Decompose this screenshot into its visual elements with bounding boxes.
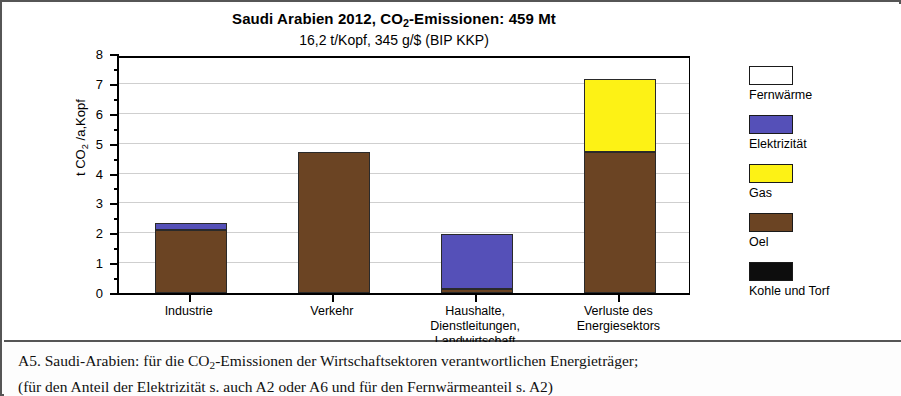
x-axis-label-2: Verkehr xyxy=(252,304,412,319)
bar-segment-elektrizit-t xyxy=(155,223,227,230)
y-tick-label: 0 xyxy=(81,288,103,300)
legend-swatch-oel xyxy=(749,213,793,232)
legend-entry-3: Gas xyxy=(749,164,899,213)
caption-line-1: A5. Saudi-Arabien: für die CO2-Emissione… xyxy=(18,350,891,376)
legend-label: Oel xyxy=(749,235,768,249)
figure-caption: A5. Saudi-Arabien: für die CO2-Emissione… xyxy=(4,342,901,396)
caption-line-1-after: -Emissionen der Wirtschaftsektoren veran… xyxy=(215,352,638,369)
figure-frame: Saudi Arabien 2012, CO2-Emissionen: 459 … xyxy=(0,0,901,396)
bar-2 xyxy=(298,54,370,293)
bar-segment-oel xyxy=(298,152,370,293)
legend-entry-4: Oel xyxy=(749,213,899,262)
chart-panel: Saudi Arabien 2012, CO2-Emissionen: 459 … xyxy=(4,4,901,342)
x-tick xyxy=(475,295,477,302)
y-tick-label: 5 xyxy=(81,139,103,151)
legend-entry-2: Elektrizität xyxy=(749,115,899,164)
legend-label: Kohle und Torf xyxy=(749,284,829,298)
y-axis: t CO2 /a,Kopf 012345678 xyxy=(79,56,117,295)
bar-segment-oel xyxy=(155,230,227,293)
caption-line-2: (für den Anteil der Elektrizität s. auch… xyxy=(18,376,891,396)
y-tick-label: 3 xyxy=(81,198,103,210)
chart-title-before: Saudi Arabien 2012, CO xyxy=(232,10,403,27)
y-tick-label: 8 xyxy=(81,49,103,61)
chart-legend: FernwärmeElektrizitätGasOelKohle und Tor… xyxy=(749,66,899,311)
y-axis-label-after: /a,Kopf xyxy=(73,99,88,144)
legend-label: Elektrizität xyxy=(749,137,807,151)
x-tick xyxy=(618,295,620,302)
legend-entry-5: Kohle und Torf xyxy=(749,262,899,311)
legend-entry-1: Fernwärme xyxy=(749,66,899,115)
chart-title-after: -Emissionen: 459 Mt xyxy=(409,10,556,27)
bar-segment-oel xyxy=(584,152,656,293)
bar-1 xyxy=(155,54,227,293)
bar-segment-elektrizit-t xyxy=(441,234,513,288)
bar-segment-gas xyxy=(584,79,656,151)
x-axis-label-4: Verluste des Energiesektors xyxy=(538,304,698,334)
bar-segment-oel xyxy=(441,289,513,293)
bar-4 xyxy=(584,54,656,293)
x-tick xyxy=(332,295,334,302)
bar-3 xyxy=(441,54,513,293)
legend-swatch-fernw-rme xyxy=(749,66,793,85)
x-axis-label-1: Industrie xyxy=(109,304,269,319)
legend-swatch-elektrizit-t xyxy=(749,115,793,134)
caption-line-1-before: A5. Saudi-Arabien: für die CO xyxy=(18,352,210,369)
chart-subtitle: 16,2 t/Kopf, 345 g/$ (BIP KKP) xyxy=(114,32,674,48)
legend-label: Gas xyxy=(749,186,772,200)
legend-swatch-kohle-und-torf xyxy=(749,262,793,281)
y-tick-label: 1 xyxy=(81,258,103,270)
y-tick-label: 6 xyxy=(81,109,103,121)
legend-label: Fernwärme xyxy=(749,88,812,102)
y-tick-label: 2 xyxy=(81,228,103,240)
legend-swatch-gas xyxy=(749,164,793,183)
plot-area xyxy=(117,56,690,295)
y-tick-label: 7 xyxy=(81,79,103,91)
x-tick xyxy=(189,295,191,302)
y-tick-label: 4 xyxy=(81,169,103,181)
chart-title: Saudi Arabien 2012, CO2-Emissionen: 459 … xyxy=(114,10,674,29)
